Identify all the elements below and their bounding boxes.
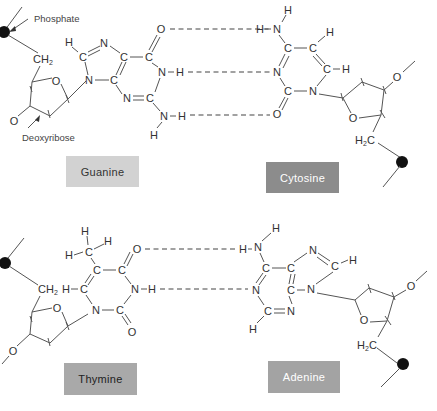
- svg-text:O: O: [10, 115, 19, 127]
- svg-text:H: H: [272, 222, 280, 234]
- svg-text:N: N: [307, 283, 315, 295]
- svg-text:H: H: [176, 66, 184, 78]
- svg-text:C: C: [323, 63, 331, 75]
- svg-text:N: N: [158, 66, 166, 78]
- guanine-backbone: Phosphate CH2 O O Deoxyribose: [0, 7, 86, 143]
- svg-text:N: N: [123, 92, 131, 104]
- svg-text:H: H: [239, 243, 247, 255]
- guanine-cytosine-pair: Phosphate CH2 O O Deoxyribose H: [0, 4, 415, 187]
- svg-text:N: N: [309, 85, 317, 97]
- svg-text:H: H: [148, 283, 156, 295]
- svg-text:N: N: [92, 304, 100, 316]
- svg-text:N: N: [309, 244, 317, 256]
- svg-text:H: H: [65, 249, 73, 261]
- svg-text:C: C: [145, 51, 153, 63]
- svg-text:O: O: [407, 280, 416, 292]
- svg-text:H: H: [81, 225, 89, 237]
- svg-text:C: C: [264, 305, 272, 317]
- cytosine-structure: H N H C C H C H N C N O: [256, 4, 415, 187]
- svg-text:C: C: [118, 264, 126, 276]
- svg-text:C: C: [284, 85, 292, 97]
- guanine-structure: H C N C N C C O N H N: [65, 23, 186, 141]
- phosphate-icon: [0, 26, 10, 38]
- svg-text:C: C: [85, 246, 93, 258]
- svg-text:C: C: [110, 74, 118, 86]
- svg-text:H: H: [150, 129, 158, 141]
- svg-text:N: N: [85, 74, 93, 86]
- deoxyribose-label: Deoxyribose: [22, 132, 75, 143]
- svg-text:N: N: [252, 284, 260, 296]
- svg-text:CH2: CH2: [33, 53, 53, 66]
- phosphate-icon: [396, 156, 408, 168]
- svg-text:O: O: [360, 314, 369, 326]
- svg-text:N: N: [287, 305, 295, 317]
- svg-text:N: N: [160, 110, 168, 122]
- svg-text:O: O: [349, 112, 358, 124]
- guanine-label: Guanine: [66, 156, 139, 187]
- svg-text:N: N: [273, 23, 281, 35]
- phosphate-icon: [0, 257, 11, 269]
- svg-text:O: O: [128, 326, 137, 338]
- svg-text:O: O: [52, 75, 61, 87]
- svg-text:O: O: [393, 71, 402, 83]
- svg-text:O: O: [53, 302, 62, 314]
- svg-text:N: N: [131, 283, 139, 295]
- svg-text:O: O: [133, 243, 142, 255]
- svg-text:H: H: [256, 23, 264, 35]
- svg-text:C: C: [287, 262, 295, 274]
- cytosine-label: Cytosine: [266, 162, 339, 193]
- svg-text:C: C: [93, 264, 101, 276]
- svg-text:H: H: [178, 110, 186, 122]
- svg-text:N: N: [254, 241, 262, 253]
- svg-text:H: H: [62, 283, 70, 295]
- svg-text:O: O: [157, 23, 166, 35]
- svg-text:C: C: [116, 304, 124, 316]
- svg-text:C: C: [262, 262, 270, 274]
- thymine-backbone: CH2 O O: [0, 238, 88, 364]
- svg-text:H2C: H2C: [355, 134, 375, 147]
- svg-text:H2C: H2C: [357, 339, 377, 352]
- svg-text:CH2: CH2: [38, 283, 58, 296]
- svg-text:N: N: [273, 66, 281, 78]
- svg-text:H: H: [342, 63, 350, 75]
- svg-text:O: O: [9, 345, 18, 357]
- phosphate-icon: [397, 358, 409, 370]
- svg-text:O: O: [273, 108, 282, 120]
- svg-text:H: H: [249, 323, 257, 335]
- thymine-label: Thymine: [64, 363, 137, 395]
- svg-text:C: C: [287, 284, 295, 296]
- svg-text:N: N: [100, 37, 108, 49]
- svg-text:C: C: [331, 260, 339, 272]
- svg-text:H: H: [349, 254, 357, 266]
- svg-text:H: H: [326, 26, 334, 38]
- svg-text:C: C: [120, 51, 128, 63]
- base-pair-diagram: Phosphate CH2 O O Deoxyribose H: [0, 0, 437, 411]
- svg-text:H: H: [65, 36, 73, 48]
- svg-text:H: H: [104, 235, 112, 247]
- svg-text:C: C: [309, 42, 317, 54]
- svg-text:H: H: [284, 4, 292, 16]
- svg-text:C: C: [80, 283, 88, 295]
- svg-text:C: C: [79, 51, 87, 63]
- svg-text:C: C: [284, 42, 292, 54]
- svg-text:C: C: [146, 92, 154, 104]
- phosphate-label: Phosphate: [34, 13, 79, 24]
- adenine-label: Adenine: [268, 361, 340, 393]
